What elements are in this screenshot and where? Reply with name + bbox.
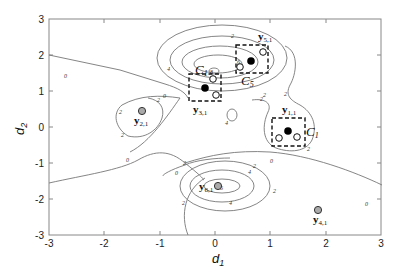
point-open [276,135,283,142]
y-tick-labels: 3 2 1 0 -1 -2 -3 [35,14,44,241]
point-y51-center [247,57,255,65]
contour-label: 4 [229,200,232,206]
contour-label: 2 [182,200,185,206]
x-tick: -1 [156,238,165,249]
contour-label: 2 [121,132,124,138]
contour-label: 0 [365,201,368,207]
contour-label: 2 [183,160,186,166]
point-y31-center [201,84,209,92]
contour-label: 0 [126,157,129,163]
y-tick: -2 [35,194,44,205]
point-open [260,49,267,56]
point-open [210,76,217,83]
y-tick: 1 [38,86,44,97]
contour-label: 2 [253,163,256,169]
y-tick: 3 [38,14,44,25]
contour-label: 2 [119,109,122,115]
point-open [294,134,301,141]
x-tick: 1 [267,238,273,249]
point-open [213,92,220,99]
contour-label: 0 [163,93,166,99]
contour-label: 2 [273,188,276,194]
y-tick: -3 [35,230,44,241]
x-tick: 3 [378,238,384,249]
y-axis-label: d2 [12,123,29,135]
point-open [237,64,244,71]
point-y11-center [284,127,292,135]
y-tick: 0 [38,122,44,133]
contour-label: 0 [175,170,178,176]
contour-label: 2 [157,97,160,103]
x-tick: -3 [45,238,54,249]
plot-area [49,19,381,235]
y-tick: -1 [35,158,44,169]
x-tick: 2 [323,238,329,249]
contour-chart: -3 -2 -1 0 1 2 3 d1 3 2 1 0 -1 -2 -3 d2 [0,0,399,276]
contour-label: 0 [64,73,67,79]
x-axis-label: d1 [212,251,224,268]
point-y61 [214,182,221,189]
contour-label: 4 [225,120,228,126]
contour-label: 2 [231,33,234,39]
contour-label: 2 [263,92,266,98]
contour-label: 4 [167,66,170,72]
y-tick: 2 [38,50,44,61]
x-tick-labels: -3 -2 -1 0 1 2 3 [45,238,385,249]
contour-label: 4 [248,169,251,175]
contour-label: 2 [307,146,310,152]
x-tick: -2 [100,238,109,249]
contour-label: 2 [284,91,287,97]
x-tick: 0 [212,238,218,249]
contour-label: 0 [270,158,273,164]
